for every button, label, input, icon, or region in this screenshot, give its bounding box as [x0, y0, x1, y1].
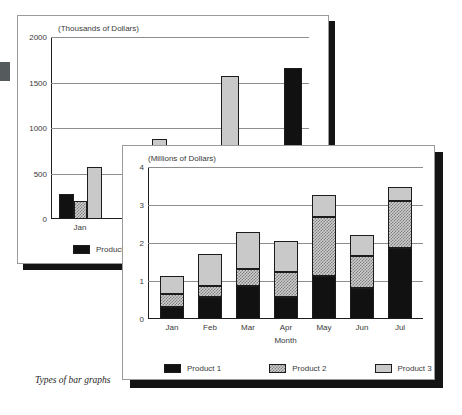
front-bar-mar-product2[interactable] [236, 269, 260, 287]
front-legend-item-product3[interactable]: Product 3 [375, 364, 432, 373]
front-legend-label-product3: Product 3 [398, 364, 432, 373]
front-bar-jul-product2[interactable] [388, 201, 412, 248]
front-bar-may-product1[interactable] [312, 276, 336, 319]
front-ytick-2: 2 [140, 239, 144, 248]
front-legend-label-product2: Product 2 [292, 364, 326, 373]
front-chart-xaxis-title: Month [274, 336, 296, 345]
back-chart-unit-label: (Thousands of Dollars) [58, 24, 139, 33]
back-xtick-jan: Jan [74, 223, 87, 232]
back-ytick-1500: 1500 [29, 78, 47, 87]
front-xtick-apr: Apr [280, 323, 292, 332]
front-bar-jan-product1[interactable] [160, 307, 184, 320]
back-legend-swatch-product1 [73, 245, 90, 254]
front-ytick-4: 4 [140, 163, 144, 172]
front-bar-mar-product1[interactable] [236, 286, 260, 319]
front-xtick-jun: Jun [356, 323, 369, 332]
front-ytick-0: 0 [140, 315, 144, 324]
front-bar-apr-product2[interactable] [274, 272, 298, 297]
front-legend-label-product1: Product 1 [187, 364, 221, 373]
back-ytick-1000: 1000 [29, 124, 47, 133]
back-gridline-1500 [51, 83, 309, 84]
front-ytick-1: 1 [140, 277, 144, 286]
front-legend-item-product2[interactable]: Product 2 [269, 364, 326, 373]
page-bleed-tab [0, 62, 10, 81]
back-bar-jan-product2[interactable] [74, 201, 87, 219]
front-legend-swatch-product2 [269, 364, 286, 373]
front-bar-jun-product3[interactable] [350, 235, 374, 255]
front-legend-swatch-product3 [375, 364, 392, 373]
front-xtick-mar: Mar [241, 323, 255, 332]
front-bar-apr-product3[interactable] [274, 241, 298, 272]
back-gridline-1000 [51, 128, 309, 129]
front-chart-plot-area: 4 3 2 1 0 [148, 167, 423, 319]
front-bar-feb-product1[interactable] [198, 297, 222, 319]
back-ytick-500: 500 [34, 169, 47, 178]
back-bar-jan-product1[interactable] [59, 194, 74, 220]
front-bar-feb-product2[interactable] [198, 286, 222, 297]
front-bar-jun-product1[interactable] [350, 288, 374, 319]
front-gridline-4 [148, 167, 423, 168]
front-ytick-3: 3 [140, 201, 144, 210]
front-bar-jul-product1[interactable] [388, 248, 412, 319]
front-legend-swatch-product1 [164, 364, 181, 373]
back-gridline-2000 [51, 37, 309, 38]
figure-caption: Types of bar graphs [35, 375, 111, 385]
back-ytick-2000: 2000 [29, 33, 47, 42]
front-bar-mar-product3[interactable] [236, 232, 260, 269]
front-xtick-may: May [316, 323, 331, 332]
front-bar-feb-product3[interactable] [198, 254, 222, 286]
front-bar-jun-product2[interactable] [350, 256, 374, 288]
front-chart-unit-label: (Millions of Dollars) [148, 154, 216, 163]
front-chart-panel[interactable]: (Millions of Dollars) 4 3 2 1 0 [122, 145, 435, 380]
front-bar-jan-product3[interactable] [160, 276, 184, 294]
front-gridline-3 [148, 205, 423, 206]
front-xtick-feb: Feb [203, 323, 217, 332]
back-bar-jan-product3[interactable] [87, 167, 102, 219]
front-bar-jan-product2[interactable] [160, 294, 184, 306]
front-xtick-jan: Jan [166, 323, 179, 332]
figure-canvas: (Thousands of Dollars) 2000 1500 1000 50… [0, 0, 462, 415]
front-chart-legend: Product 1 Product 2 Product 3 [164, 364, 432, 373]
front-panel-shadow-right [435, 152, 443, 387]
front-panel-shadow-bottom [130, 380, 443, 388]
front-bar-apr-product1[interactable] [274, 297, 298, 319]
front-bar-may-product2[interactable] [312, 217, 336, 276]
front-bar-jul-product3[interactable] [388, 187, 412, 201]
front-legend-item-product1[interactable]: Product 1 [164, 364, 221, 373]
front-xtick-jul: Jul [395, 323, 405, 332]
front-bar-may-product3[interactable] [312, 195, 336, 217]
back-ytick-0: 0 [43, 215, 47, 224]
